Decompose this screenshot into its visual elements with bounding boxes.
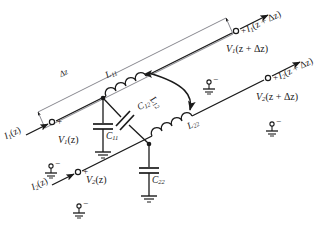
- terminal-port1-input: [49, 119, 54, 124]
- label-C22: C22: [152, 176, 165, 186]
- label-v1-z: V1(z): [58, 135, 79, 146]
- terminal-port2-input: [75, 169, 80, 174]
- label-v2-z: V2(z): [86, 175, 107, 186]
- polarity-plus-port1-input: +: [57, 117, 62, 126]
- diagram-svg: [0, 0, 332, 232]
- terminal-port1-output: [233, 28, 238, 33]
- label-v1-z-plus-dz: V1(z + Δz): [226, 44, 268, 55]
- terminal-port2-output: [265, 75, 270, 80]
- capacitor-C22: [139, 144, 159, 202]
- capacitor-C11: [93, 98, 113, 158]
- circuit-diagram-figure: I1(z) + V1(z) − I2(z) + V2(z) − Δz L11 L…: [0, 0, 332, 232]
- polarity-minus-port1-input: −: [55, 159, 60, 168]
- polarity-minus-port2-output: −: [276, 117, 281, 126]
- polarity-plus-port2-output: +: [273, 73, 278, 82]
- polarity-minus-port2-input: −: [83, 199, 88, 208]
- polarity-plus-port1-output: +: [241, 26, 246, 35]
- label-C11: C11: [106, 132, 118, 142]
- polarity-minus-port1-output: −: [213, 75, 218, 84]
- label-v2-z-plus-dz: V2(z + Δz): [256, 92, 298, 103]
- line2-conductor: [52, 62, 300, 185]
